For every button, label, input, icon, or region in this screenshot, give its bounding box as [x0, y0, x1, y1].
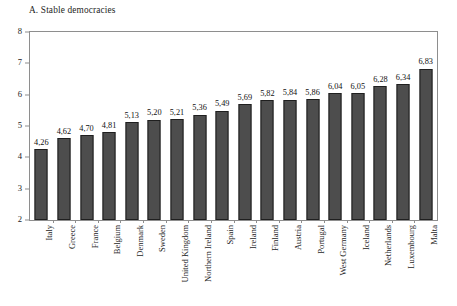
bar-value-label: 5,13 [124, 112, 139, 120]
y-tick-label: 6 [18, 89, 22, 98]
x-label-slot: Malta [414, 224, 437, 306]
x-label-slot: Denmark [120, 224, 143, 306]
bar-slot: 5,86 [301, 32, 324, 220]
x-label-slot: West Germany [324, 224, 347, 306]
bar-value-label: 6,83 [418, 58, 433, 66]
y-tick-label: 2 [18, 215, 22, 224]
y-tick-label: 5 [18, 121, 22, 130]
bar-slot: 6,05 [347, 32, 370, 220]
x-label-slot: Belgium [98, 224, 121, 306]
bar-slot: 5,84 [279, 32, 302, 220]
x-tick-label: Luxembourg [407, 181, 416, 225]
y-axis: 2345678 [0, 31, 29, 221]
bar-value-label: 5,82 [260, 90, 275, 98]
y-tick-label: 7 [18, 58, 22, 67]
bar-value-label: 6,28 [373, 76, 388, 84]
bar-slot: 6,83 [414, 32, 437, 220]
bar[interactable] [216, 111, 229, 220]
bar-value-label: 5,84 [283, 89, 298, 97]
bar-slot: 5,69 [234, 32, 257, 220]
x-tick-label: Denmark [135, 193, 144, 225]
bar-value-label: 6,34 [396, 74, 411, 82]
x-label-slot: Finland [256, 224, 279, 306]
bar-slot: 5,20 [143, 32, 166, 220]
x-tick-label: West Germany [339, 174, 348, 225]
bar-value-label: 6,05 [351, 83, 366, 91]
bar-slot: 4,26 [30, 32, 53, 220]
bars-group: 4,264,624,704,815,135,205,215,365,495,69… [30, 32, 437, 220]
x-label-slot: Ireland [234, 224, 257, 306]
x-tick-label: Northern Ireland [203, 168, 212, 225]
x-tick-label: Greece [68, 201, 77, 225]
x-label-slot: Luxembourg [392, 224, 415, 306]
x-label-slot: Austria [279, 224, 302, 306]
bar-slot: 4,70 [75, 32, 98, 220]
x-tick-label: United Kingdom [181, 168, 190, 225]
bar-slot: 4,81 [98, 32, 121, 220]
x-label-slot: Italy [30, 224, 53, 306]
x-tick-label-text: Malta [429, 225, 438, 245]
x-label-slot: France [75, 224, 98, 306]
y-tick-label: 3 [18, 183, 22, 192]
x-tick-label: Sweden [158, 198, 167, 225]
x-tick-label: Netherlands [384, 184, 393, 225]
bar-value-label: 5,21 [170, 109, 185, 117]
bar-slot: 4,62 [53, 32, 76, 220]
y-tick-label: 8 [18, 27, 22, 36]
bar-value-label: 5,20 [147, 109, 162, 117]
bar-value-label: 4,62 [57, 128, 72, 136]
bar-slot: 5,13 [120, 32, 143, 220]
bar-value-label: 4,70 [79, 125, 94, 133]
bar-value-label: 5,36 [192, 104, 207, 112]
x-label-slot: Spain [211, 224, 234, 306]
x-label-slot: Netherlands [369, 224, 392, 306]
bar-value-label: 5,49 [215, 100, 230, 108]
x-tick-label: Portugal [316, 196, 325, 225]
x-label-slot: Portugal [301, 224, 324, 306]
x-tick-label: Italy [45, 209, 54, 225]
x-tick-label: Finland [271, 199, 280, 225]
bar-value-label: 4,81 [102, 122, 117, 130]
x-label-slot: Greece [53, 224, 76, 306]
bar-value-label: 4,26 [34, 139, 49, 147]
x-tick-label: Belgium [113, 196, 122, 225]
x-label-slot: Sweden [143, 224, 166, 306]
x-tick-label: Ireland [248, 201, 257, 225]
bar-value-label: 6,04 [328, 83, 343, 91]
y-tick-label: 4 [18, 152, 22, 161]
bar-value-label: 5,69 [238, 94, 253, 102]
x-axis-labels: ItalyGreeceFranceBelgiumDenmarkSwedenUni… [30, 224, 437, 306]
bar[interactable] [419, 69, 432, 220]
bar-slot: 5,49 [211, 32, 234, 220]
x-label-slot: Northern Ireland [188, 224, 211, 306]
x-tick-label: Austria [294, 200, 303, 225]
x-label-slot: Iceland [347, 224, 370, 306]
x-tick-label: Malta [429, 205, 438, 225]
bar-slot: 5,82 [256, 32, 279, 220]
x-tick-label: Iceland [361, 200, 370, 225]
chart-title: A. Stable democracies [29, 5, 116, 15]
x-label-slot: United Kingdom [166, 224, 189, 306]
x-tick-label: France [90, 202, 99, 225]
x-tick-label: Spain [226, 206, 235, 225]
bar-value-label: 5,86 [305, 89, 320, 97]
chart-figure: A. Stable democracies 2345678 4,264,624,… [0, 0, 457, 306]
